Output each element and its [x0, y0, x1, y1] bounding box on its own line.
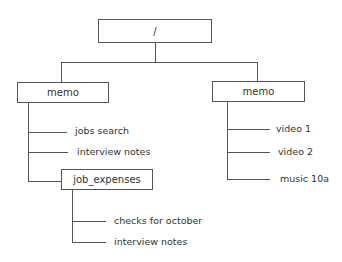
job-expenses-folder-box: job_expenses [61, 169, 153, 190]
left-drop-line [61, 62, 62, 82]
root-directory-box: / [98, 19, 212, 43]
right-memo-folder-box: memo [212, 81, 305, 102]
branch-line-checks-for-october [72, 221, 106, 222]
file-interview-notes: interview notes [77, 146, 150, 158]
file-jobs-search: jobs search [75, 125, 129, 137]
root-bus-line [61, 62, 258, 63]
branch-line-video-2 [227, 152, 270, 153]
left-memo-folder-label: memo [47, 87, 79, 98]
directory-tree-diagram: / memo memo jobs search interview notes … [0, 0, 342, 262]
file-interview-notes-2: interview notes [114, 236, 187, 248]
branch-line-music-10a [227, 179, 270, 180]
root-directory-label: / [153, 26, 156, 37]
left-memo-folder-box: memo [17, 82, 109, 103]
branch-line-interview-notes [28, 152, 68, 153]
job-expenses-folder-label: job_expenses [73, 174, 141, 185]
job-expenses-trunk-line [72, 190, 73, 243]
branch-line-video-1 [227, 129, 270, 130]
branch-line-job-expenses [28, 181, 61, 182]
file-checks-for-october: checks for october [114, 215, 202, 227]
root-stem-line [155, 43, 156, 62]
file-video-2: video 2 [278, 146, 313, 158]
branch-line-interview-notes-2 [72, 242, 106, 243]
file-music-10a: music 10a [280, 173, 329, 185]
left-children-trunk-line [28, 103, 29, 182]
file-video-1: video 1 [276, 123, 311, 135]
right-children-trunk-line [227, 102, 228, 180]
right-memo-folder-label: memo [243, 86, 275, 97]
branch-line-jobs-search [28, 132, 67, 133]
right-drop-line [257, 62, 258, 81]
